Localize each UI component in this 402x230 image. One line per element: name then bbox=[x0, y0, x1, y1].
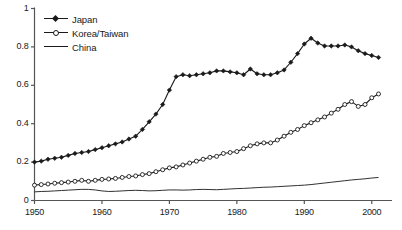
data-point-korea-taiwan bbox=[134, 174, 138, 178]
legend-label: Japan bbox=[72, 14, 97, 25]
data-point-korea-taiwan bbox=[147, 172, 151, 176]
data-point-japan bbox=[32, 160, 36, 164]
data-point-korea-taiwan bbox=[161, 168, 165, 172]
legend-item-korea-taiwan[interactable]: Korea/Taiwan bbox=[44, 26, 128, 40]
legend-label: Korea/Taiwan bbox=[72, 28, 128, 39]
data-point-korea-taiwan bbox=[248, 144, 252, 148]
y-axis-label-0-6: 0.6 bbox=[17, 79, 29, 89]
data-point-japan bbox=[39, 159, 43, 163]
data-point-japan bbox=[181, 73, 185, 77]
data-point-korea-taiwan bbox=[269, 141, 273, 145]
data-point-japan bbox=[120, 140, 124, 144]
x-axis-label-1970: 1970 bbox=[149, 207, 189, 217]
series-line-china bbox=[35, 177, 379, 191]
data-point-japan bbox=[322, 44, 326, 48]
data-point-japan bbox=[221, 69, 225, 73]
data-point-japan bbox=[93, 147, 97, 151]
data-point-japan bbox=[370, 53, 374, 57]
chart-container: 00.20.40.60.81 195019601970198019902000 … bbox=[0, 0, 402, 230]
data-point-korea-taiwan bbox=[323, 115, 327, 119]
data-point-korea-taiwan bbox=[356, 104, 360, 108]
data-point-korea-taiwan bbox=[228, 151, 232, 155]
data-point-korea-taiwan bbox=[343, 103, 347, 107]
data-point-korea-taiwan bbox=[370, 96, 374, 100]
data-point-korea-taiwan bbox=[235, 150, 239, 154]
data-point-japan bbox=[73, 151, 77, 155]
data-point-korea-taiwan bbox=[154, 170, 158, 174]
data-point-korea-taiwan bbox=[255, 142, 259, 146]
data-point-korea-taiwan bbox=[329, 111, 333, 115]
data-point-korea-taiwan bbox=[46, 182, 50, 186]
data-point-japan bbox=[53, 156, 57, 160]
data-point-korea-taiwan bbox=[93, 178, 97, 182]
data-point-korea-taiwan bbox=[80, 178, 84, 182]
data-point-japan bbox=[46, 157, 50, 161]
data-point-japan bbox=[201, 72, 205, 76]
data-point-korea-taiwan bbox=[174, 165, 178, 169]
data-point-korea-taiwan bbox=[181, 163, 185, 167]
data-point-japan bbox=[194, 73, 198, 77]
data-point-japan bbox=[235, 71, 239, 75]
data-point-japan bbox=[80, 150, 84, 154]
legend-swatch-open-circle-icon bbox=[44, 26, 68, 40]
data-point-korea-taiwan bbox=[275, 138, 279, 142]
data-point-korea-taiwan bbox=[188, 161, 192, 165]
data-point-korea-taiwan bbox=[302, 124, 306, 128]
data-point-korea-taiwan bbox=[127, 175, 131, 179]
data-point-japan bbox=[268, 73, 272, 77]
data-point-korea-taiwan bbox=[100, 177, 104, 181]
x-axis-label-1980: 1980 bbox=[217, 207, 257, 217]
data-point-korea-taiwan bbox=[242, 147, 246, 151]
data-point-korea-taiwan bbox=[39, 183, 43, 187]
data-point-korea-taiwan bbox=[120, 175, 124, 179]
x-axis-label-1950: 1950 bbox=[15, 207, 55, 217]
data-point-korea-taiwan bbox=[33, 183, 37, 187]
data-point-japan bbox=[363, 51, 367, 55]
legend-item-japan[interactable]: Japan bbox=[44, 12, 128, 26]
data-point-korea-taiwan bbox=[350, 100, 354, 104]
data-point-japan bbox=[336, 44, 340, 48]
data-point-japan bbox=[106, 144, 110, 148]
y-axis-label-1: 1 bbox=[24, 3, 29, 13]
x-axis-label-1990: 1990 bbox=[284, 207, 324, 217]
data-point-japan bbox=[127, 137, 131, 141]
data-point-korea-taiwan bbox=[167, 166, 171, 170]
y-axis-label-0-8: 0.8 bbox=[17, 41, 29, 51]
data-point-korea-taiwan bbox=[377, 92, 381, 96]
data-point-japan bbox=[214, 69, 218, 73]
data-point-japan bbox=[100, 146, 104, 150]
data-point-korea-taiwan bbox=[59, 181, 63, 185]
data-point-korea-taiwan bbox=[289, 130, 293, 134]
y-axis-label-0-2: 0.2 bbox=[17, 156, 29, 166]
data-point-japan bbox=[376, 55, 380, 59]
data-point-korea-taiwan bbox=[215, 154, 219, 158]
data-point-japan bbox=[343, 43, 347, 47]
series-line-korea-taiwan bbox=[35, 94, 379, 185]
data-point-korea-taiwan bbox=[140, 173, 144, 177]
data-point-japan bbox=[329, 44, 333, 48]
data-point-japan bbox=[174, 74, 178, 78]
data-point-korea-taiwan bbox=[194, 159, 198, 163]
data-point-korea-taiwan bbox=[66, 180, 70, 184]
x-axis-label-1960: 1960 bbox=[82, 207, 122, 217]
x-axis-label-2000: 2000 bbox=[352, 207, 392, 217]
data-point-korea-taiwan bbox=[262, 141, 266, 145]
series-line-japan bbox=[35, 38, 379, 162]
data-point-japan bbox=[275, 71, 279, 75]
data-point-japan bbox=[187, 74, 191, 78]
legend-item-china[interactable]: China bbox=[44, 40, 128, 54]
data-point-korea-taiwan bbox=[282, 134, 286, 138]
data-point-japan bbox=[86, 149, 90, 153]
data-point-japan bbox=[208, 71, 212, 75]
data-point-korea-taiwan bbox=[107, 177, 111, 181]
data-point-korea-taiwan bbox=[363, 103, 367, 107]
legend-swatch-filled-diamond-icon bbox=[44, 12, 68, 26]
data-point-japan bbox=[59, 155, 63, 159]
data-point-korea-taiwan bbox=[73, 179, 77, 183]
y-axis-label-0-4: 0.4 bbox=[17, 118, 29, 128]
data-point-japan bbox=[167, 88, 171, 92]
legend-swatch-none-icon bbox=[44, 40, 68, 54]
data-point-japan bbox=[66, 153, 70, 157]
legend-label: China bbox=[72, 42, 96, 53]
data-point-korea-taiwan bbox=[296, 127, 300, 131]
